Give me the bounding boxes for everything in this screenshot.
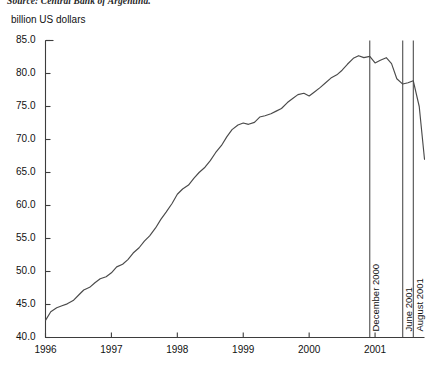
y-tick-labels: 40.045.050.055.060.065.070.075.080.085.0: [16, 34, 36, 342]
tick-label-y: 40.0: [16, 331, 36, 342]
axis-line: [46, 41, 425, 338]
tick-label-x: 1997: [100, 344, 123, 355]
tick-label-y: 85.0: [16, 34, 36, 45]
event-label-december-2000: December 2000: [370, 264, 381, 332]
x-tick-labels: 199619971998199920002001: [34, 344, 386, 355]
data-line-series-0: [46, 56, 425, 321]
x-tick-marks: [46, 333, 376, 338]
data-series: [46, 56, 425, 321]
tick-label-y: 65.0: [16, 166, 36, 177]
tick-label-y: 80.0: [16, 67, 36, 78]
tick-label-y: 50.0: [16, 265, 36, 276]
tick-label-x: 1998: [166, 344, 189, 355]
tick-label-y: 70.0: [16, 133, 36, 144]
tick-label-x: 2001: [364, 344, 387, 355]
tick-label-x: 2000: [298, 344, 321, 355]
tick-label-y: 60.0: [16, 199, 36, 210]
axis-frame: [46, 41, 425, 338]
chart-container: Source: Central Bank of Argentina. billi…: [0, 0, 437, 370]
event-label-june-2001: June 2001: [403, 287, 414, 331]
event-label-august-2001: August 2001: [414, 278, 425, 331]
tick-label-y: 55.0: [16, 232, 36, 243]
tick-label-x: 1996: [34, 344, 57, 355]
tick-label-y: 45.0: [16, 298, 36, 309]
y-tick-marks: [46, 41, 51, 338]
event-labels: December 2000June 2001August 2001: [370, 264, 425, 332]
tick-label-x: 1999: [232, 344, 255, 355]
line-chart-plot: 40.045.050.055.060.065.070.075.080.085.0…: [0, 0, 437, 370]
tick-label-y: 75.0: [16, 100, 36, 111]
